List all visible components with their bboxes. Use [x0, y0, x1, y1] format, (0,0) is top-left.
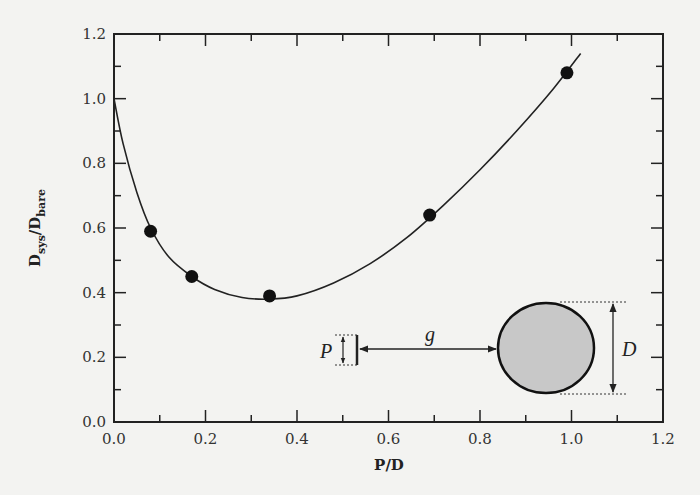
- gap-label: g: [425, 323, 435, 346]
- data-point: [423, 209, 436, 222]
- data-point: [560, 66, 573, 79]
- y-tick-label: 0.8: [82, 154, 106, 172]
- data-points: [144, 66, 573, 302]
- y-axis-title-sep: /D: [26, 217, 44, 236]
- y-axis-title-sub2: bare: [35, 189, 48, 217]
- fit-curve: [114, 53, 581, 299]
- axis-tick-labels: 0.00.20.40.60.81.01.20.00.20.40.60.81.01…: [82, 25, 675, 448]
- pore-label: P: [319, 340, 332, 362]
- x-tick-label: 0.8: [468, 430, 492, 448]
- fit-curve-path: [114, 53, 581, 299]
- data-point: [263, 289, 276, 302]
- x-tick-label: 1.0: [560, 430, 584, 448]
- x-tick-label: 1.2: [651, 430, 675, 448]
- y-tick-label: 1.0: [82, 90, 106, 108]
- diameter-label: D: [621, 338, 637, 360]
- data-point: [185, 270, 198, 283]
- inset-diagram: P g D: [319, 302, 637, 394]
- x-tick-label: 0.6: [377, 430, 401, 448]
- particle-circle: [498, 303, 594, 393]
- data-point: [144, 225, 157, 238]
- y-tick-label: 0.4: [82, 284, 106, 302]
- y-tick-label: 0.2: [82, 348, 106, 366]
- y-axis-title-sub1: sys: [35, 235, 48, 254]
- x-tick-label: 0.2: [194, 430, 218, 448]
- y-tick-label: 0.0: [82, 413, 106, 431]
- chart: 0.00.20.40.60.81.01.20.00.20.40.60.81.01…: [0, 0, 700, 495]
- x-tick-label: 0.0: [102, 430, 126, 448]
- y-axis-title-main: D: [26, 254, 44, 267]
- y-tick-label: 0.6: [82, 219, 106, 237]
- x-tick-label: 0.4: [285, 430, 309, 448]
- x-axis-title: P/D: [374, 456, 404, 474]
- y-tick-label: 1.2: [82, 25, 106, 43]
- y-axis-title: Dsys/Dbare: [26, 189, 48, 267]
